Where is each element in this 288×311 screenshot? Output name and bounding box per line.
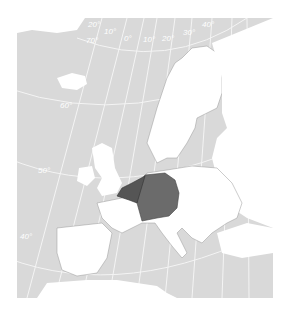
longitude-label-40e: 40° (202, 20, 214, 29)
longitude-label-0: 0° (124, 34, 132, 43)
longitude-label-10e: 10° (143, 35, 155, 44)
latitude-label-70: 70° (86, 36, 98, 45)
longitude-label-10w: 10° (104, 27, 116, 36)
latitude-label-60: 60° (60, 101, 72, 110)
latitude-label-50: 50° (38, 166, 50, 175)
longitude-label-30e: 30° (183, 28, 195, 37)
longitude-label-20e: 20° (162, 34, 174, 43)
longitude-label-20w: 20° (88, 20, 100, 29)
europe-map (17, 18, 273, 298)
latitude-label-40: 40° (20, 232, 32, 241)
